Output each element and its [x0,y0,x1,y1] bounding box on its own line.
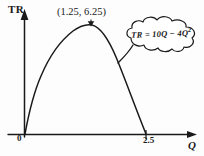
formula-lead: TR = 10Q − 4Q [131,28,188,40]
axis-label-q: Q [188,140,196,151]
axis-label-tr: TR [8,4,24,15]
x-tick-label-2point5: 2.5 [143,136,154,145]
callout-formula-text: TR = 10Q − 4Q2 [131,27,192,39]
callout-tail [118,45,133,63]
x-axis [8,131,197,138]
y-axis [21,9,29,137]
tr-curve [25,25,146,134]
tr-curve-figure: TR Q 0 2.5 (1.25, 6.25) TR = 10Q − 4Q2 [0,0,204,156]
vertex-coordinate-label: (1.25, 6.25) [57,7,106,18]
formula-exponent: 2 [188,26,192,33]
x-axis-arrowhead [187,131,197,138]
origin-label: 0 [17,134,22,143]
figure-canvas [0,0,204,156]
